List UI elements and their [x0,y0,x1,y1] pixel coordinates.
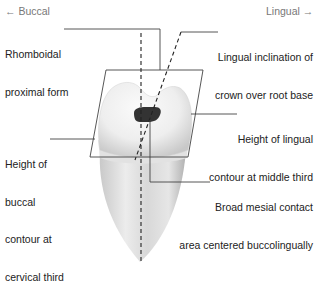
buccal-height-label-line4: cervical third [5,271,64,284]
mesial-contact-label-line1: Broad mesial contact [179,201,313,214]
mesial-contact-label-line2: area centered buccolingually [179,239,313,252]
buccal-height-label-line2: buccal [5,196,64,209]
lingual-direction-label: Lingual → [266,5,313,17]
buccal-direction-label: ← Buccal [5,5,50,17]
rhomboidal-label-line2: proximal form [5,86,69,99]
lingual-inclination-label-line2: crown over root base [215,89,313,102]
buccal-height-label: Height of buccal contour at cervical thi… [5,133,64,285]
rhomboidal-leader [64,29,160,70]
lingual-height-label-line1: Height of lingual [209,133,313,146]
lingual-inclination-label: Lingual inclination of crown over root b… [215,26,313,114]
tooth-root [100,150,186,262]
rhomboidal-label-line1: Rhomboidal [5,48,69,61]
mesial-contact-label: Broad mesial contact area centered bucco… [179,176,313,264]
lingual-inclination-label-line1: Lingual inclination of [215,51,313,64]
rhomboidal-label: Rhomboidal proximal form [5,23,69,111]
buccal-height-label-line1: Height of [5,158,64,171]
buccal-height-label-line3: contour at [5,233,64,246]
